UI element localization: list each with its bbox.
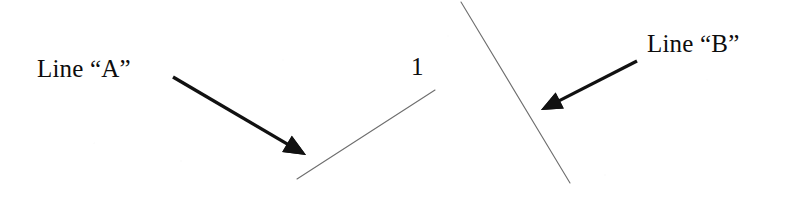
line-b-label: Line “B” bbox=[647, 31, 740, 56]
numeral-one-label: 1 bbox=[411, 54, 424, 79]
line-a-label: Line “A” bbox=[37, 56, 131, 81]
figure-canvas: Line “A” Line “B” 1 bbox=[0, 0, 786, 199]
